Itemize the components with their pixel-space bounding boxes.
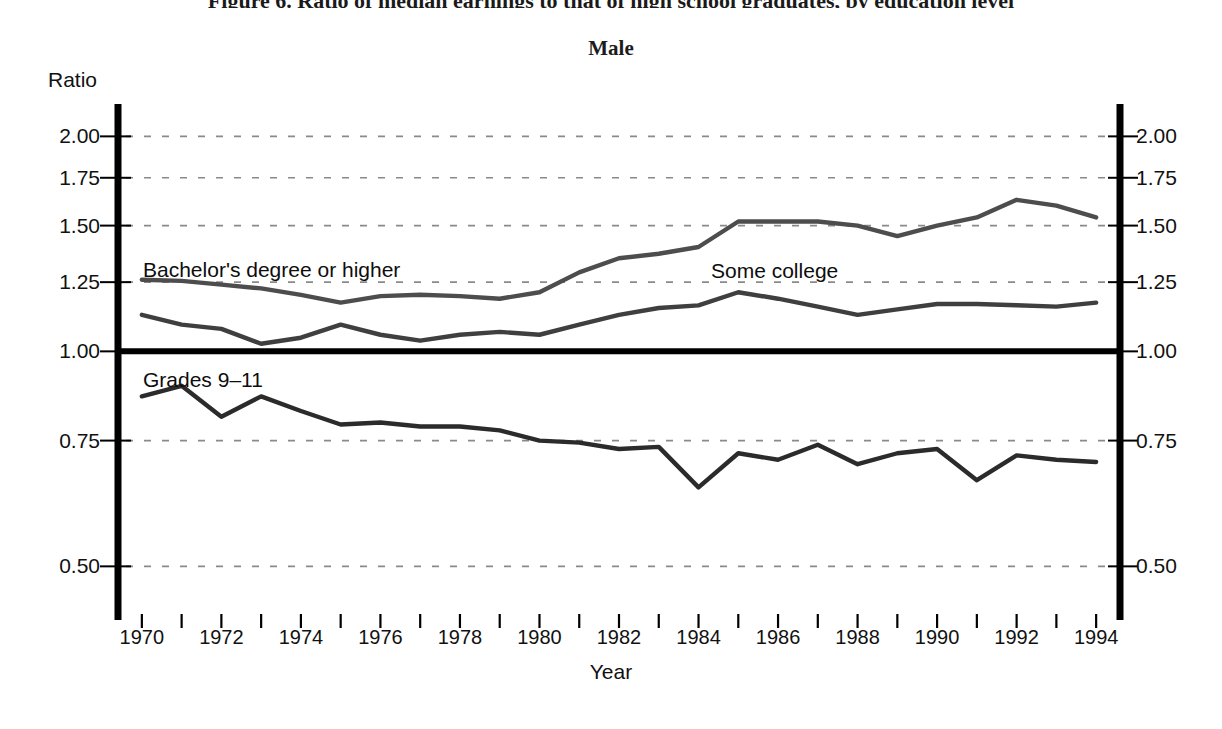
x-tick-label: 1988 [818,627,898,647]
y-tick-label-right: 1.00 [1136,340,1177,361]
series-line-2 [142,386,1096,488]
x-tick-label: 1984 [659,627,739,647]
y-tick-label-left: 0.75 [59,430,100,451]
x-tick-label: 1990 [897,627,977,647]
x-tick-label: 1974 [261,627,341,647]
figure-container: Figure 6. Ratio of median earnings to th… [0,0,1222,729]
y-tick-label-left: 1.50 [59,215,100,236]
x-tick-label: 1992 [977,627,1057,647]
x-tick-label: 1980 [499,627,579,647]
bachelors-label: Bachelor's degree or higher [143,258,400,282]
x-tick-label: 1982 [579,627,659,647]
series-line-1 [142,292,1096,343]
y-tick-label-left: 1.75 [59,167,100,188]
x-tick-label: 1994 [1056,627,1136,647]
y-tick-label-right: 1.25 [1136,271,1177,292]
y-tick-label-right: 1.75 [1136,167,1177,188]
y-tick-label-left: 0.50 [59,555,100,576]
y-tick-label-left: 1.00 [59,340,100,361]
x-tick-label: 1976 [340,627,420,647]
some-college-label: Some college [711,259,838,283]
y-tick-label-right: 1.50 [1136,215,1177,236]
x-tick-label: 1986 [738,627,818,647]
x-tick-label: 1972 [181,627,261,647]
y-tick-label-left: 1.25 [59,271,100,292]
y-tick-label-left: 2.00 [59,125,100,146]
grades-label: Grades 9–11 [143,368,263,392]
y-tick-label-right: 0.50 [1136,555,1177,576]
y-tick-label-right: 0.75 [1136,430,1177,451]
x-tick-label: 1970 [102,627,182,647]
series-line-0 [142,200,1096,303]
plot-area [0,0,1222,729]
y-tick-label-right: 2.00 [1136,125,1177,146]
x-tick-label: 1978 [420,627,500,647]
